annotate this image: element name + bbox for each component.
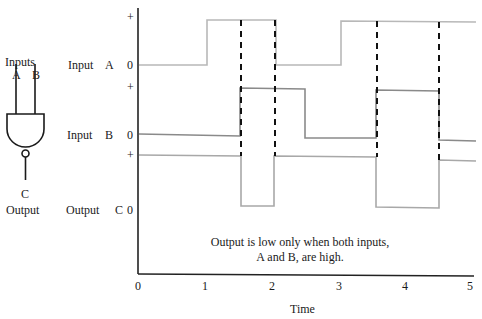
x-tick-5: 5 — [467, 279, 473, 293]
row-letter-a: A — [105, 58, 114, 72]
x-axis-label: Time — [290, 302, 315, 316]
x-tick-0: 0 — [135, 279, 141, 293]
input-b-high-mark: + — [127, 80, 134, 94]
row-label-input-b: Input — [67, 128, 92, 142]
x-tick-2: 2 — [269, 279, 275, 293]
x-tick-1: 1 — [202, 279, 208, 293]
annotation-note: Output is low only when both inputs, A a… — [190, 235, 410, 265]
gate-input-b-label: B — [32, 68, 40, 82]
output-c-waveform — [139, 155, 476, 208]
row-letter-c: C — [115, 203, 123, 217]
gate-output-letter: C — [21, 187, 29, 201]
row-label-output-c: Output — [66, 203, 99, 217]
input-a-waveform — [139, 20, 476, 65]
output-c-low-mark: 0 — [127, 203, 133, 217]
x-tick-4: 4 — [402, 279, 408, 293]
gate-body — [7, 114, 44, 147]
x-tick-3: 3 — [336, 279, 342, 293]
input-b-low-mark: 0 — [127, 128, 133, 142]
row-label-input-a: Input — [68, 58, 93, 72]
annotation-line-2: A and B, are high. — [190, 250, 410, 265]
gate-inputs-heading: Inputs — [5, 55, 35, 69]
x-axis-line — [138, 274, 474, 276]
input-b-waveform — [139, 88, 476, 141]
annotation-line-1: Output is low only when both inputs, — [190, 235, 410, 250]
gate-input-a-label: A — [12, 68, 21, 82]
gate-inversion-bubble — [22, 150, 29, 157]
timing-diagram-canvas — [0, 0, 482, 319]
row-letter-b: B — [105, 128, 113, 142]
input-a-low-mark: 0 — [127, 58, 133, 72]
input-a-high-mark: + — [127, 10, 134, 24]
gate-output-label: Output — [6, 203, 39, 217]
output-c-high-mark: + — [127, 148, 134, 162]
